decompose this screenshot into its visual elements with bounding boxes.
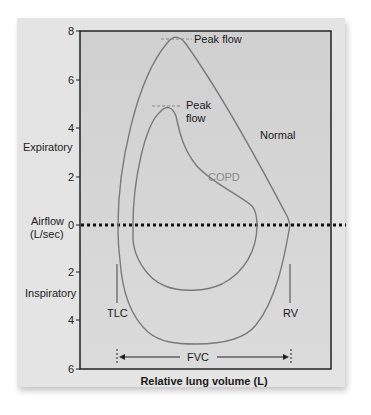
peak-flow-normal-label: Peak flow xyxy=(194,33,242,45)
inspiratory-label: Inspiratory xyxy=(25,287,77,299)
tlc-label: TLC xyxy=(107,307,128,319)
flow-volume-diagram: 8 6 4 2 0 2 4 6 Expiratory Airflow (L/se… xyxy=(0,0,371,415)
peak-flow-copd-label-line2: flow xyxy=(186,112,206,124)
tick-label: 8 xyxy=(68,25,74,37)
airflow-unit-label: (L/sec) xyxy=(30,228,64,240)
copd-label: COPD xyxy=(208,171,240,183)
tick-label: 4 xyxy=(68,314,74,326)
airflow-label: Airflow xyxy=(31,215,64,227)
peak-flow-copd-label-line1: Peak xyxy=(186,99,212,111)
fvc-label: FVC xyxy=(187,351,209,363)
tick-label: 4 xyxy=(68,122,74,134)
y-axis-tick-labels: 8 6 4 2 0 2 4 6 xyxy=(68,25,74,375)
tick-label: 6 xyxy=(68,363,74,375)
normal-label: Normal xyxy=(260,129,295,141)
tick-label: 2 xyxy=(68,266,74,278)
rv-label: RV xyxy=(283,307,299,319)
x-axis-label: Relative lung volume (L) xyxy=(140,375,267,387)
tick-label: 2 xyxy=(68,171,74,183)
tick-label: 6 xyxy=(68,74,74,86)
tick-label: 0 xyxy=(68,219,74,231)
expiratory-label: Expiratory xyxy=(23,141,73,153)
